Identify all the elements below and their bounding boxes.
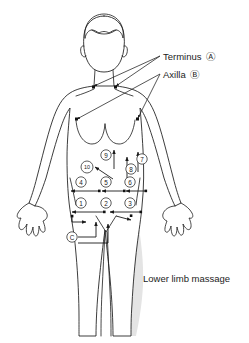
marker-7-label: 7 [140, 156, 144, 163]
marker-1-label: 1 [79, 200, 83, 207]
marker-3-label: 3 [128, 200, 132, 207]
marker-8-label: 8 [129, 166, 133, 173]
marker-4-label: 4 [79, 179, 83, 186]
axilla-text: Axilla [163, 69, 186, 80]
marker-6-label: 6 [128, 179, 132, 186]
body-outline [17, 14, 193, 336]
marker-8[interactable]: 8 [126, 164, 136, 174]
marker-5-label: 5 [104, 179, 108, 186]
marker-c-label: C [70, 234, 75, 241]
marker-5[interactable]: 5 [101, 177, 111, 187]
marker-10[interactable]: 10 [81, 161, 93, 173]
callout-axilla-label: AxillaⒷ [163, 69, 200, 80]
marker-6[interactable]: 6 [125, 177, 135, 187]
marker-7[interactable]: 7 [137, 154, 147, 164]
callout-labels: TerminusⒶ AxillaⒷ [163, 51, 216, 80]
marker-1[interactable]: 1 [76, 198, 86, 208]
marker-9-label: 9 [104, 152, 108, 159]
terminus-badge: Ⓐ [206, 51, 216, 62]
marker-c[interactable]: C [67, 232, 77, 242]
marker-9[interactable]: 9 [101, 150, 111, 160]
marker-2[interactable]: 2 [101, 198, 111, 208]
figure-root: 1 2 3 4 5 6 [0, 0, 249, 343]
axilla-badge: Ⓑ [190, 69, 200, 80]
marker-2-label: 2 [104, 200, 108, 207]
callout-terminus-label: TerminusⒶ [163, 51, 216, 62]
anatomy-diagram: 1 2 3 4 5 6 [0, 0, 249, 343]
marker-4[interactable]: 4 [76, 177, 86, 187]
terminus-text: Terminus [163, 51, 202, 62]
marker-10-label: 10 [84, 164, 90, 170]
marker-3[interactable]: 3 [125, 198, 135, 208]
figure-caption: Lower limb massage [143, 273, 230, 284]
